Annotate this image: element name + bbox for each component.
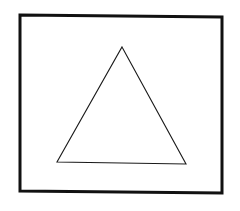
background xyxy=(0,0,240,211)
diagram-canvas xyxy=(0,0,240,211)
